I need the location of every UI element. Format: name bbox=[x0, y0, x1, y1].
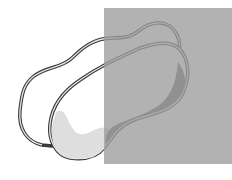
overlay-rectangle bbox=[104, 8, 232, 164]
illustration bbox=[0, 0, 232, 180]
